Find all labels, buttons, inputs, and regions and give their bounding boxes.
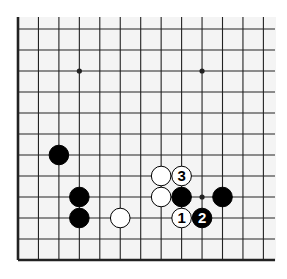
black-stone-icon	[172, 187, 192, 207]
white-stone	[110, 208, 130, 228]
white-stone-move-1: 1	[172, 208, 192, 228]
black-stone-icon	[70, 208, 90, 228]
black-stone	[70, 187, 90, 207]
white-stone-icon	[110, 208, 130, 228]
move-number-label: 1	[177, 209, 185, 226]
move-number-label: 3	[177, 167, 185, 184]
move-number-label: 2	[198, 209, 206, 226]
star-point-icon	[199, 68, 204, 73]
white-stone	[151, 187, 171, 207]
black-stone-move-2: 2	[192, 208, 212, 228]
black-stone-icon	[49, 145, 69, 165]
white-stone	[151, 166, 171, 186]
black-stone-icon	[213, 187, 233, 207]
black-stone-icon	[70, 187, 90, 207]
black-stone	[213, 187, 233, 207]
star-point-icon	[199, 194, 204, 199]
white-stone-icon	[151, 187, 171, 207]
black-stone	[70, 208, 90, 228]
white-stone-icon	[151, 166, 171, 186]
board-background	[18, 17, 276, 261]
white-stone-move-3: 3	[172, 166, 192, 186]
black-stone	[49, 145, 69, 165]
go-board: 312	[0, 0, 287, 279]
star-point-icon	[77, 68, 82, 73]
black-stone	[172, 187, 192, 207]
